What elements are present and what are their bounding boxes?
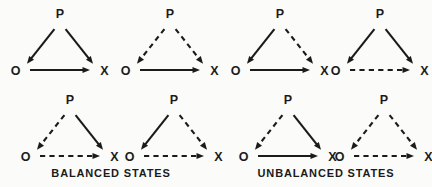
triangle-graph: POX — [232, 8, 328, 84]
edge-shaft-solid — [251, 29, 275, 59]
edge-shaft-solid — [145, 115, 169, 145]
triangle-graph: POX — [122, 8, 218, 84]
edge-shaft-solid — [351, 29, 375, 59]
arrowhead — [37, 142, 44, 150]
triangle-balanced-2: POX — [122, 8, 218, 84]
node-label-p: P — [56, 7, 64, 21]
arrowhead — [83, 67, 91, 73]
triangle-unbalanced-2: POX — [332, 8, 428, 84]
arrowhead — [351, 142, 358, 150]
node-label-o: O — [331, 64, 341, 78]
node-label-p: P — [276, 7, 284, 21]
triangle-unbalanced-1: POX — [232, 8, 328, 84]
edge-shaft-dashed — [180, 115, 204, 145]
caption-balanced-states: BALANCED STATES — [36, 167, 186, 179]
triangle-balanced-3: POX — [22, 94, 118, 170]
edge-shaft-solid — [66, 29, 90, 59]
node-label-p: P — [376, 7, 384, 21]
node-label-x: X — [320, 64, 329, 78]
node-label-x: X — [420, 64, 429, 78]
edge-shaft-solid — [76, 115, 100, 145]
triangle-balanced-1: POX — [12, 8, 108, 84]
node-label-p: P — [166, 7, 174, 21]
node-label-p: P — [380, 93, 388, 107]
node-label-o: O — [239, 150, 249, 164]
node-label-o: O — [11, 64, 21, 78]
node-label-x: X — [424, 150, 432, 164]
node-label-x: X — [214, 150, 223, 164]
triangle-graph: POX — [126, 94, 222, 170]
triangle-graph: POX — [240, 94, 336, 170]
edge-shaft-solid — [294, 115, 318, 145]
arrowhead — [255, 142, 262, 150]
node-label-p: P — [66, 93, 74, 107]
node-label-o: O — [125, 150, 135, 164]
node-label-p: P — [170, 93, 178, 107]
triangle-graph: POX — [332, 8, 428, 84]
arrowhead — [200, 142, 207, 150]
arrowhead — [193, 67, 201, 73]
edge-shaft-dashed — [355, 115, 379, 145]
arrowhead — [407, 153, 415, 159]
arrowhead — [303, 67, 311, 73]
arrowhead — [311, 153, 319, 159]
node-label-x: X — [210, 64, 219, 78]
triangle-unbalanced-4: POX — [336, 94, 432, 170]
arrowhead — [93, 153, 101, 159]
triangle-unbalanced-3: POX — [240, 94, 336, 170]
triangle-graph: POX — [22, 94, 118, 170]
triangle-balanced-4: POX — [126, 94, 222, 170]
arrowhead — [137, 56, 144, 64]
edge-shaft-solid — [31, 29, 55, 59]
arrowhead — [410, 142, 417, 150]
edge-shaft-dashed — [176, 29, 200, 59]
arrowhead — [306, 56, 313, 64]
triangle-graph: POX — [336, 94, 432, 170]
edge-shaft-dashed — [286, 29, 310, 59]
caption-unbalanced-states: UNBALANCED STATES — [246, 167, 406, 179]
node-label-o: O — [21, 150, 31, 164]
edge-shaft-dashed — [41, 115, 65, 145]
arrowhead — [196, 56, 203, 64]
edge-shaft-solid — [386, 29, 410, 59]
arrowhead — [403, 67, 411, 73]
triangle-graph: POX — [12, 8, 108, 84]
edge-shaft-dashed — [259, 115, 283, 145]
node-label-p: P — [284, 93, 292, 107]
node-label-o: O — [121, 64, 131, 78]
node-label-o: O — [335, 150, 345, 164]
node-label-x: X — [100, 64, 109, 78]
arrowhead — [197, 153, 205, 159]
edge-shaft-dashed — [141, 29, 165, 59]
node-label-o: O — [231, 64, 241, 78]
node-label-x: X — [110, 150, 119, 164]
edge-shaft-dashed — [390, 115, 414, 145]
